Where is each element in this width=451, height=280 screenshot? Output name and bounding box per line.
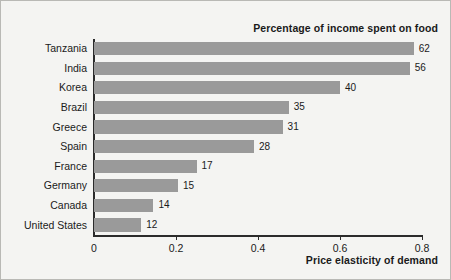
x-tick-label: 0.4 (251, 242, 266, 254)
x-tick-label: 0 (91, 242, 97, 254)
bar (94, 160, 197, 173)
bar-row: Germany15 (94, 176, 422, 196)
bar-row: Brazil35 (94, 98, 422, 118)
bar-value-label: 40 (345, 81, 356, 95)
bar-row: Canada14 (94, 196, 422, 216)
bar-row: United States12 (94, 215, 422, 235)
chart-title: Percentage of income spent on food (253, 22, 438, 34)
bar-row: Greece31 (94, 117, 422, 137)
bar-value-label: 12 (146, 218, 157, 232)
x-tick-mark (340, 235, 341, 240)
bar (94, 218, 141, 231)
bar (94, 62, 410, 75)
bar (94, 179, 178, 192)
x-tick-mark (176, 235, 177, 240)
category-label: Canada (50, 198, 87, 212)
category-label: United States (24, 218, 87, 232)
bar-value-label: 35 (294, 100, 305, 114)
bar (94, 120, 283, 133)
bar (94, 101, 289, 114)
bar (94, 81, 340, 94)
bar (94, 42, 414, 55)
category-label: Tanzania (45, 41, 87, 55)
bar (94, 199, 153, 212)
category-label: Korea (59, 80, 87, 94)
plot-area: Tanzania62India56Korea40Brazil35Greece31… (94, 39, 422, 235)
category-label: Spain (60, 139, 87, 153)
category-label: Brazil (61, 100, 87, 114)
bar-row: India56 (94, 59, 422, 79)
bar-row: Tanzania62 (94, 39, 422, 59)
bar-row: France17 (94, 157, 422, 177)
x-tick-mark (258, 235, 259, 240)
bar-value-label: 31 (288, 120, 299, 134)
bar-row: Spain28 (94, 137, 422, 157)
bar-value-label: 56 (415, 61, 426, 75)
category-label: Greece (53, 120, 87, 134)
bar-value-label: 62 (419, 42, 430, 56)
category-label: India (64, 61, 87, 75)
bar-value-label: 15 (183, 179, 194, 193)
category-label: Germany (44, 178, 87, 192)
chart-figure: Percentage of income spent on food Tanza… (0, 0, 451, 280)
bar (94, 140, 254, 153)
bar-value-label: 28 (259, 140, 270, 154)
x-tick-mark (422, 235, 423, 240)
x-tick-label: 0.6 (333, 242, 348, 254)
x-tick-label: 0.2 (169, 242, 184, 254)
category-label: France (54, 159, 87, 173)
bar-value-label: 17 (202, 159, 213, 173)
x-tick-label: 0.8 (415, 242, 430, 254)
bar-row: Korea40 (94, 78, 422, 98)
x-axis-title: Price elasticity of demand (306, 254, 438, 266)
bar-value-label: 14 (158, 198, 169, 212)
